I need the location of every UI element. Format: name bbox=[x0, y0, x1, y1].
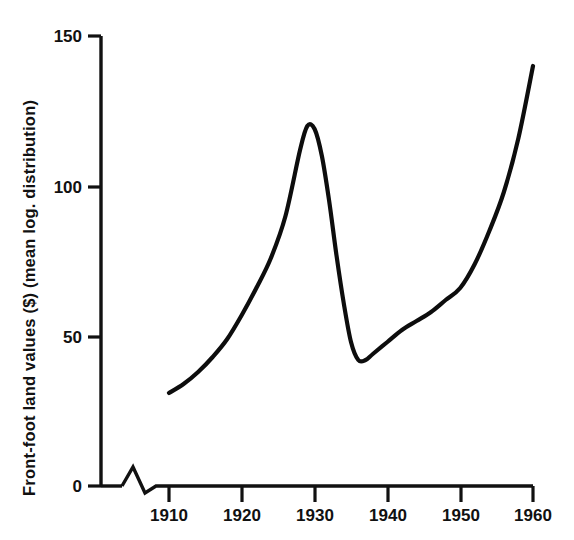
y-tick-label-50: 50 bbox=[63, 328, 82, 347]
x-tick-label-1930: 1930 bbox=[296, 506, 334, 525]
x-axis-break-zigzag bbox=[122, 467, 533, 493]
y-axis-tick-labels: 150 100 50 0 bbox=[54, 27, 82, 496]
chart-figure: Front-foot land values ($) (mean log. di… bbox=[0, 0, 574, 540]
x-tick-label-1950: 1950 bbox=[442, 506, 480, 525]
y-tick-label-100: 100 bbox=[54, 178, 82, 197]
y-axis-ticks bbox=[88, 36, 101, 486]
x-tick-label-1910: 1910 bbox=[150, 506, 188, 525]
x-axis-tick-labels: 1910 1920 1930 1940 1950 1960 bbox=[150, 506, 552, 525]
x-axis-ticks bbox=[169, 486, 533, 502]
y-axis-title: Front-foot land values ($) (mean log. di… bbox=[20, 100, 38, 496]
x-tick-label-1920: 1920 bbox=[223, 506, 261, 525]
x-tick-label-1940: 1940 bbox=[369, 506, 407, 525]
line-chart-svg: Front-foot land values ($) (mean log. di… bbox=[0, 0, 574, 540]
y-tick-label-0: 0 bbox=[73, 477, 82, 496]
x-tick-label-1960: 1960 bbox=[514, 506, 552, 525]
data-series-line bbox=[169, 66, 533, 393]
y-tick-label-150: 150 bbox=[54, 27, 82, 46]
